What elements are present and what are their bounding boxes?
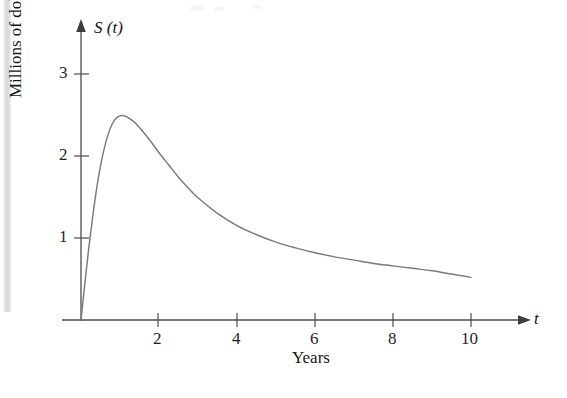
- y-axis-arrow-icon: [76, 19, 86, 32]
- x-axis-caption: Years: [292, 348, 330, 368]
- x-tick-label-6: 6: [310, 330, 319, 347]
- figure-container: 3 2 1 2 4 6 8 10 S (t) t Years Millions …: [0, 0, 567, 398]
- x-tick-label-8: 8: [388, 330, 397, 347]
- y-axis-name-label: S (t): [94, 18, 123, 38]
- x-axis-arrow-icon: [518, 315, 531, 325]
- x-tick-label-10: 10: [461, 330, 478, 347]
- y-axis-caption: Millions of dollars: [6, 0, 26, 98]
- y-tick-label-1: 1: [59, 228, 68, 245]
- x-tick-label-2: 2: [153, 330, 162, 347]
- y-tick-label-2: 2: [59, 146, 68, 163]
- x-axis-name-label: t: [534, 309, 539, 329]
- y-tick-label-3: 3: [59, 64, 68, 81]
- x-tick-label-4: 4: [232, 330, 241, 347]
- chart-plot-area: [0, 0, 567, 398]
- data-curve-s-of-t: [81, 116, 471, 320]
